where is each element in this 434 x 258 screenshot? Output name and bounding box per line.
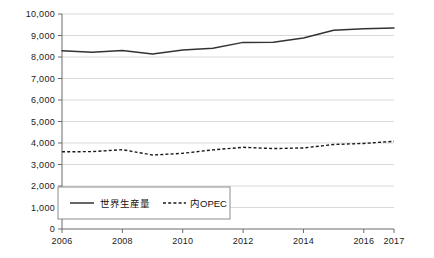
x-tick-label: 2017 [384, 236, 405, 246]
x-tick-label: 2008 [112, 236, 133, 246]
y-tick-label: 7,000 [31, 74, 55, 84]
y-tick-label: 8,000 [31, 52, 55, 62]
y-tick-label: 10,000 [26, 9, 55, 19]
y-tick-label: 1,000 [31, 203, 55, 213]
line-chart: 10,0009,0008,0007,0006,0005,0004,0003,00… [0, 0, 434, 258]
x-tick-label: 2010 [172, 236, 193, 246]
x-tick-label: 2016 [353, 236, 374, 246]
y-tick-label: 6,000 [31, 95, 55, 105]
y-tick-label: 4,000 [31, 138, 55, 148]
legend-label-opec: 内OPEC [190, 198, 227, 209]
legend: 世界生産量 内OPEC [58, 187, 230, 219]
y-tick-label: 2,000 [31, 181, 55, 191]
x-tick-label: 2006 [52, 236, 73, 246]
y-tick-label: 0 [50, 224, 55, 234]
legend-label-world-production: 世界生産量 [100, 198, 150, 209]
x-tick-label: 2012 [233, 236, 254, 246]
y-tick-label: 3,000 [31, 160, 55, 170]
chart-canvas: 10,0009,0008,0007,0006,0005,0004,0003,00… [0, 0, 434, 258]
y-tick-label: 9,000 [31, 31, 55, 41]
x-tick-label: 2014 [293, 236, 314, 246]
y-tick-label: 5,000 [31, 117, 55, 127]
